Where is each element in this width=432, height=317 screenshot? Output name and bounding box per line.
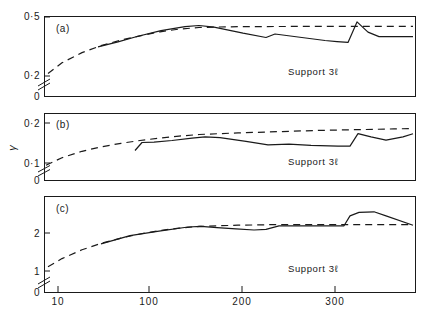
panel-a-theoretical-curve <box>48 26 413 73</box>
panel-b-tag: (b) <box>56 119 70 130</box>
panel-b-ytick-label-top: 0·2 <box>24 118 40 129</box>
y-axis-title: γ <box>6 144 18 151</box>
xtick-label-200: 200 <box>232 296 252 307</box>
panel-c-theoretical-curve <box>48 225 413 267</box>
panel-c-tag: (c) <box>56 203 69 214</box>
panel-c-support-label: Support 3ℓ <box>288 263 339 274</box>
panel-b-ytick-label-zero: 0 <box>34 175 40 186</box>
panel-c-ytick-label-top: 2 <box>34 228 40 239</box>
panel-c-ytick-label-zero: 0 <box>34 287 40 298</box>
figure-container: 0·5 0·2 0 (a) Support 3ℓ 0·2 0·1 0 γ (b)… <box>0 0 432 317</box>
xtick-label-300: 300 <box>325 296 345 307</box>
panel-c-experimental-curve <box>101 212 413 244</box>
panel-a-ytick-label-mid: 0·2 <box>24 70 40 81</box>
panel-c-ytick-label-mid: 1 <box>34 266 40 277</box>
panel-a-experimental-curve <box>98 22 413 47</box>
panel-b-ytick-label-mid: 0·1 <box>24 158 40 169</box>
panel-a-tag: (a) <box>56 23 70 34</box>
panel-a-support-label: Support 3ℓ <box>288 66 339 77</box>
panel-b-support-label: Support 3ℓ <box>288 156 339 167</box>
xtick-label-100: 100 <box>139 296 159 307</box>
x-axis: 10 100 200 300 <box>51 286 344 307</box>
panel-a: 0·5 0·2 0 (a) Support 3ℓ <box>24 11 415 102</box>
panel-a-frame <box>45 17 416 97</box>
panel-a-ytick-label-top: 0·5 <box>24 11 40 22</box>
panel-a-ytick-label-zero: 0 <box>34 91 40 102</box>
figure-svg: 0·5 0·2 0 (a) Support 3ℓ 0·2 0·1 0 γ (b)… <box>0 0 432 317</box>
xtick-label-10: 10 <box>51 296 64 307</box>
panel-b-frame <box>45 114 416 181</box>
panel-c: 2 1 0 (c) Support 3ℓ <box>34 197 416 299</box>
panel-c-frame <box>45 197 416 293</box>
panel-b: 0·2 0·1 0 γ (b) Support 3ℓ <box>6 114 416 187</box>
